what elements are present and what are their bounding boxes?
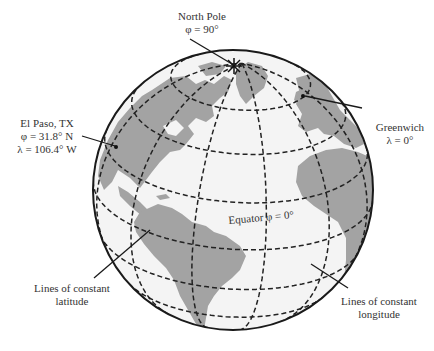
north-pole-marker [226,58,242,74]
el-paso-point [114,145,118,149]
north-pole-name: North Pole [157,10,247,23]
north-pole-label: North Pole φ = 90° [157,10,247,36]
greenwich-label: Greenwich λ = 0° [365,121,434,147]
el-paso-label: El Paso, TX φ = 31.8° N λ = 106.4° W [4,117,90,156]
latitude-lines-label-line1: Lines of constant [22,282,122,295]
longitude-lines-label: Lines of constant longitude [329,295,429,321]
north-pole-value: φ = 90° [157,23,247,36]
el-paso-longitude: λ = 106.4° W [4,143,90,156]
greenwich-value: λ = 0° [365,134,434,147]
greenwich-point [301,94,305,98]
longitude-lines-label-line1: Lines of constant [329,295,429,308]
longitude-lines-label-line2: longitude [329,308,429,321]
el-paso-name: El Paso, TX [4,117,90,130]
greenwich-name: Greenwich [365,121,434,134]
latitude-lines-label-line2: latitude [22,295,122,308]
latitude-lines-label: Lines of constant latitude [22,282,122,308]
el-paso-latitude: φ = 31.8° N [4,130,90,143]
